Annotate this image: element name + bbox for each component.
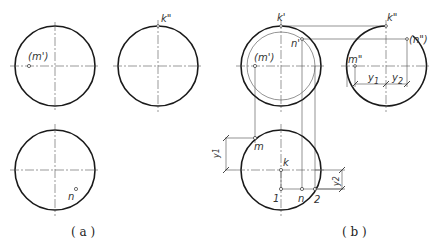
label-k-side: k" bbox=[387, 12, 397, 23]
caption-b: ( b ) bbox=[342, 225, 367, 239]
point-m-top bbox=[253, 136, 256, 139]
label-m-front: (m') bbox=[254, 52, 274, 63]
label-k-top: k bbox=[283, 157, 290, 168]
label-k-side: k" bbox=[161, 13, 171, 24]
panel-b-front-view: k' n' (m') bbox=[236, 12, 326, 112]
point-k-side bbox=[157, 25, 160, 28]
caption-a: ( a ) bbox=[71, 225, 95, 239]
point-k-side bbox=[385, 25, 388, 28]
projection-lines bbox=[255, 26, 407, 189]
point-1-top bbox=[279, 187, 282, 190]
panel-a-front-view: (m') bbox=[10, 22, 100, 110]
label-n-top: n bbox=[68, 191, 74, 202]
label-m-front: (m') bbox=[28, 51, 48, 62]
label-m-side: m" bbox=[348, 54, 362, 65]
panel-a-top-view: n bbox=[10, 124, 100, 216]
panel-b-side-view: k" (n") m" y1 y2 bbox=[341, 12, 431, 112]
label-k-front: k' bbox=[277, 12, 286, 23]
label-2-top: 2 bbox=[314, 194, 320, 205]
point-m-front bbox=[253, 64, 256, 67]
point-k-top bbox=[279, 168, 282, 171]
label-y2-top: y2 bbox=[332, 176, 341, 187]
point-n-top bbox=[300, 187, 303, 190]
point-k-front bbox=[280, 25, 283, 28]
panel-b: k' n' (m') k" (n") m" y1 y2 bbox=[212, 12, 431, 239]
label-y1-top: y1 bbox=[212, 148, 221, 159]
point-m-front bbox=[27, 64, 30, 67]
label-n-top: n bbox=[298, 193, 304, 204]
point-n-side bbox=[406, 38, 409, 41]
point-n-front bbox=[301, 38, 304, 41]
panel-b-top-view: m k 1 n 2 y1 y2 bbox=[212, 124, 345, 216]
label-n-front: n' bbox=[291, 38, 300, 49]
label-1-top: 1 bbox=[273, 193, 279, 204]
label-n-side: (n") bbox=[409, 34, 428, 45]
point-n-top bbox=[74, 187, 77, 190]
panel-a-side-view: k" bbox=[113, 13, 203, 112]
sphere-projection-diagram: (m') k" n ( a ) bbox=[0, 0, 438, 248]
panel-a: (m') k" n ( a ) bbox=[10, 13, 203, 239]
label-m-top: m bbox=[254, 141, 264, 152]
